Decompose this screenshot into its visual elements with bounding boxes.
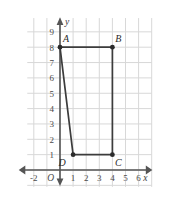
vertex-label-B: B (115, 33, 121, 44)
x-axis-name-label: x (142, 173, 148, 183)
vertex-label-C: C (115, 157, 122, 168)
y-tick-label: 5 (50, 89, 55, 99)
y-axis-arrow-up (57, 17, 64, 25)
origin-label: O (47, 173, 54, 183)
vertex-point-B (110, 45, 115, 50)
y-tick-label: 8 (50, 43, 55, 53)
x-tick-label: -2 (30, 173, 38, 183)
vertex-point-D (71, 152, 76, 157)
shape-edge-DA (60, 47, 73, 154)
vertex-point-A (58, 45, 63, 50)
y-tick-label: 6 (50, 73, 55, 83)
y-tick-label: 2 (50, 135, 55, 145)
coordinate-plane-svg: -2123456123456789OyxABCD (0, 0, 177, 202)
x-tick-label: 4 (110, 173, 115, 183)
x-tick-label: 1 (71, 173, 76, 183)
x-axis-arrow-left (19, 165, 26, 174)
y-tick-label: 9 (50, 27, 55, 37)
y-tick-label: 1 (50, 150, 55, 160)
vertex-label-A: A (62, 33, 70, 44)
vertex-label-D: D (57, 157, 66, 168)
y-tick-label: 7 (50, 58, 55, 68)
x-tick-label: 2 (84, 173, 89, 183)
coordinate-plane-figure: -2123456123456789OyxABCD (0, 0, 177, 202)
x-tick-label: 3 (97, 173, 102, 183)
y-tick-label: 4 (50, 104, 55, 114)
y-axis-name-label: y (64, 17, 70, 27)
y-tick-label: 3 (50, 119, 55, 129)
x-tick-label: 6 (136, 173, 141, 183)
x-tick-label: 5 (123, 173, 128, 183)
